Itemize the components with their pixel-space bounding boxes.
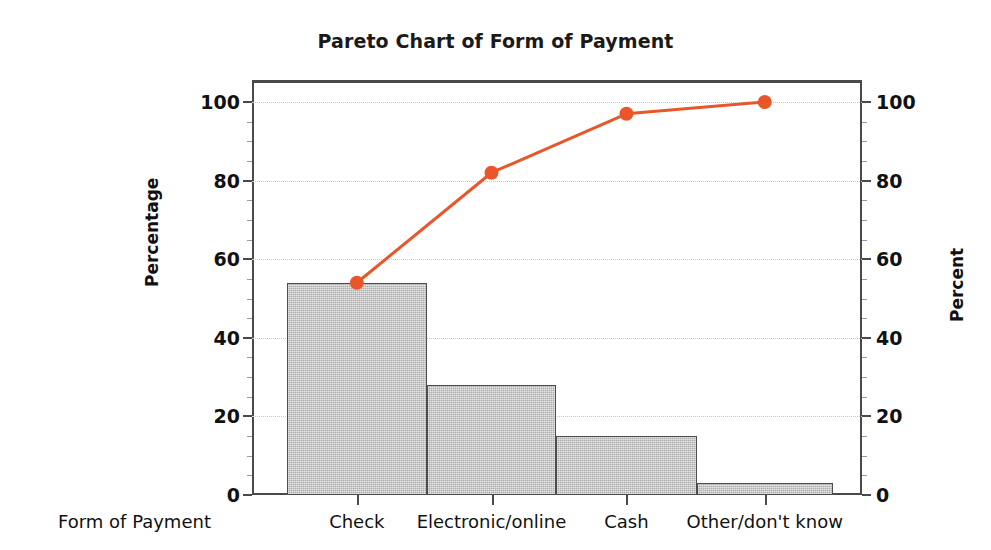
left-tick-mark [243, 415, 252, 417]
x-tick-label: Other/don't know [687, 510, 843, 534]
x-tick-mark [357, 495, 359, 505]
x-axis-ticks [252, 495, 862, 505]
x-axis-title: Form of Payment [58, 510, 211, 534]
left-minor-tick [247, 357, 252, 358]
left-minor-tick [247, 397, 252, 398]
left-tick-mark [243, 337, 252, 339]
right-tick-label: 60 [876, 250, 922, 269]
right-minor-tick [862, 122, 867, 123]
left-axis-tick-labels: 020406080100 [182, 80, 240, 495]
right-axis-ticks [862, 80, 871, 495]
left-minor-tick [247, 200, 252, 201]
left-tick-label: 60 [194, 250, 240, 269]
cumulative-point-marker [350, 276, 364, 290]
x-tick-label: Cash [604, 510, 648, 534]
left-tick-label: 100 [194, 93, 240, 112]
left-axis-title: Percentage [142, 178, 162, 287]
left-minor-tick [247, 240, 252, 241]
x-tick-mark [492, 495, 494, 505]
chart-title: Pareto Chart of Form of Payment [0, 30, 991, 52]
cumulative-point-marker [485, 166, 499, 180]
left-minor-tick [247, 141, 252, 142]
left-minor-tick [247, 436, 252, 437]
left-minor-tick [247, 475, 252, 476]
right-minor-tick [862, 141, 867, 142]
left-tick-mark [243, 258, 252, 260]
right-tick-mark [862, 180, 871, 182]
right-minor-tick [862, 200, 867, 201]
x-tick-label: Electronic/online [417, 510, 567, 534]
cumulative-point-marker [758, 95, 772, 109]
right-tick-mark [862, 494, 871, 496]
right-tick-label: 0 [876, 486, 922, 505]
right-minor-tick [862, 357, 867, 358]
left-minor-tick [247, 299, 252, 300]
left-tick-mark [243, 101, 252, 103]
right-minor-tick [862, 299, 867, 300]
left-axis-ticks [243, 80, 252, 495]
cumulative-line-series [252, 80, 862, 495]
left-tick-label: 0 [194, 486, 240, 505]
right-tick-label: 20 [876, 407, 922, 426]
right-minor-tick [862, 397, 867, 398]
right-minor-tick [862, 161, 867, 162]
right-axis-tick-labels: 020406080100 [876, 80, 934, 495]
right-minor-tick [862, 220, 867, 221]
right-tick-label: 40 [876, 328, 922, 347]
left-tick-label: 40 [194, 328, 240, 347]
left-tick-label: 80 [194, 171, 240, 190]
right-tick-mark [862, 258, 871, 260]
right-axis-title: Percent [947, 248, 967, 322]
right-tick-mark [862, 337, 871, 339]
right-tick-label: 100 [876, 93, 922, 112]
right-minor-tick [862, 475, 867, 476]
left-minor-tick [247, 318, 252, 319]
right-minor-tick [862, 377, 867, 378]
x-tick-label: Check [329, 510, 384, 534]
left-tick-mark [243, 494, 252, 496]
left-minor-tick [247, 456, 252, 457]
left-tick-label: 20 [194, 407, 240, 426]
left-minor-tick [247, 377, 252, 378]
x-tick-mark [626, 495, 628, 505]
right-minor-tick [862, 318, 867, 319]
left-minor-tick [247, 279, 252, 280]
right-minor-tick [862, 436, 867, 437]
right-tick-mark [862, 101, 871, 103]
left-minor-tick [247, 122, 252, 123]
right-tick-mark [862, 415, 871, 417]
cumulative-line [357, 102, 765, 283]
right-minor-tick [862, 456, 867, 457]
plot-area [252, 80, 862, 495]
left-minor-tick [247, 161, 252, 162]
right-minor-tick [862, 279, 867, 280]
left-minor-tick [247, 220, 252, 221]
left-tick-mark [243, 180, 252, 182]
right-minor-tick [862, 240, 867, 241]
cumulative-point-marker [619, 107, 633, 121]
x-tick-mark [765, 495, 767, 505]
pareto-chart: Pareto Chart of Form of Payment 02040608… [0, 0, 991, 550]
x-axis-tick-labels: CheckElectronic/onlineCashOther/don't kn… [252, 510, 862, 536]
right-tick-label: 80 [876, 171, 922, 190]
